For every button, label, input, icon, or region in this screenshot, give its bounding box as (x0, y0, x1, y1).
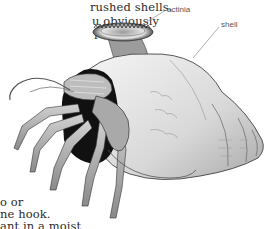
hermit-crab-illustration (0, 0, 270, 229)
leader-line-shell (193, 27, 219, 58)
antenna-left (10, 78, 70, 100)
leader-line-actinia (140, 10, 166, 26)
document-page: rushed shells. u obviously l with a o or… (0, 0, 270, 229)
